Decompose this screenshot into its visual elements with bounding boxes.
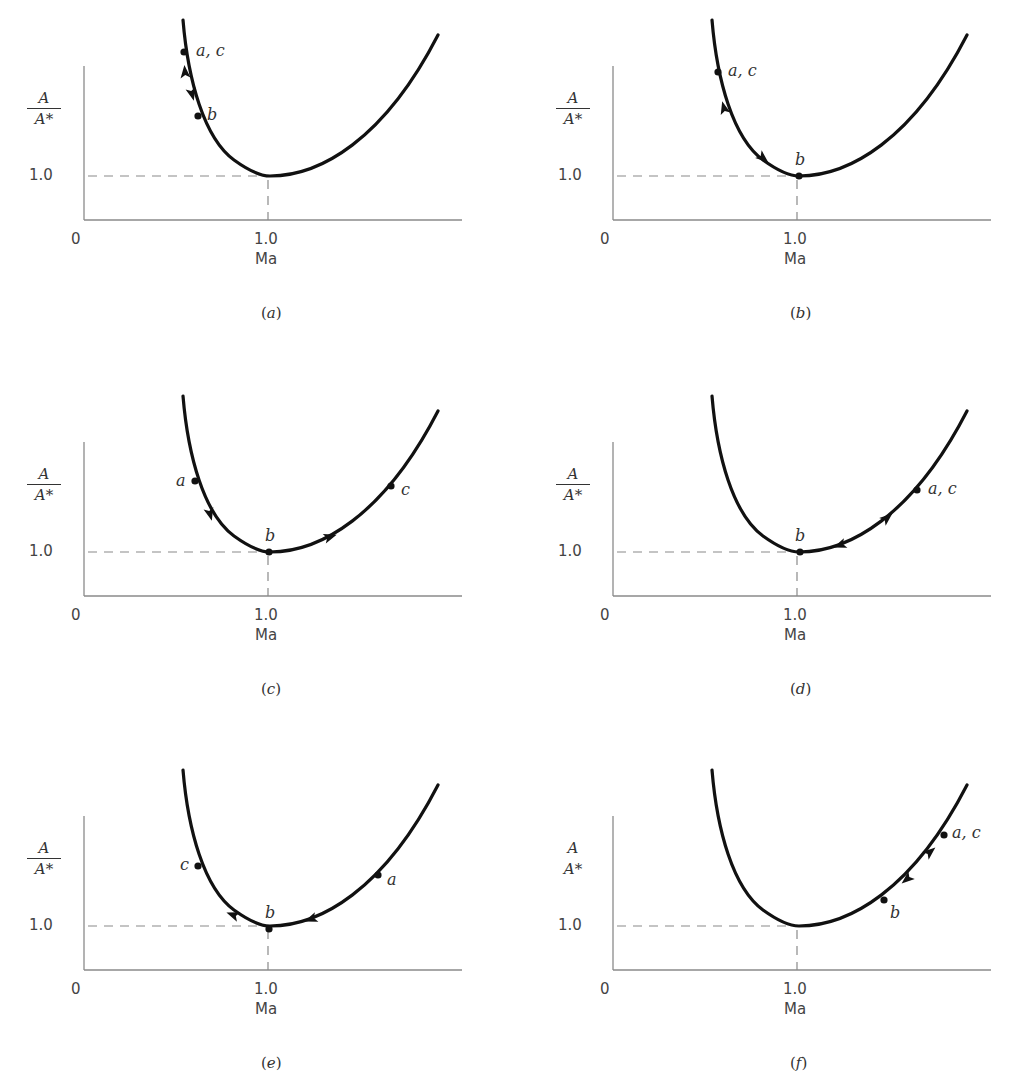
y-axis-label: AA* xyxy=(556,840,590,878)
state-point-label: c xyxy=(401,482,410,498)
state-point-label: b xyxy=(890,905,900,921)
state-point-label: a, c xyxy=(928,481,957,497)
y-axis-label-denominator: A* xyxy=(27,861,61,878)
panel-b: AA*1.001.0Maa, cb(b) xyxy=(613,20,1020,360)
state-point-marker xyxy=(265,925,272,932)
state-point-label: a, c xyxy=(728,63,757,79)
y-axis-label-denominator: A* xyxy=(556,487,590,504)
fraction-bar xyxy=(27,484,61,485)
state-point-marker xyxy=(194,112,201,119)
y-tick-label-1: 1.0 xyxy=(558,168,582,183)
plot-area xyxy=(84,770,564,1089)
area-ratio-curve xyxy=(183,396,438,552)
state-point-label: a, c xyxy=(196,43,225,59)
state-point-marker xyxy=(913,486,920,493)
plot-area xyxy=(613,770,1020,1089)
y-axis-label: AA* xyxy=(27,840,61,878)
state-point-label: b xyxy=(795,152,805,168)
panel-f: AA*1.001.0Maa, cb(f) xyxy=(613,770,1020,1089)
state-point-label: a xyxy=(176,473,186,489)
area-ratio-curve xyxy=(183,770,438,926)
state-point-label: b xyxy=(795,528,805,544)
y-axis-label-numerator: A xyxy=(27,90,61,107)
area-ratio-curve xyxy=(712,396,967,552)
panel-caption: (d) xyxy=(790,682,811,697)
y-axis-label: AA* xyxy=(27,466,61,504)
state-point-label: a, c xyxy=(952,825,981,841)
caption-paren-close: ) xyxy=(276,1054,282,1072)
state-point-label: a xyxy=(387,872,397,888)
x-tick-label-1: 1.0 xyxy=(783,982,807,997)
x-axis-label: Ma xyxy=(255,628,277,643)
fraction-bar xyxy=(27,108,61,109)
state-point-marker xyxy=(880,896,887,903)
caption-paren-close: ) xyxy=(801,1054,807,1072)
state-point-marker xyxy=(191,477,198,484)
panel-c: AA*1.001.0Maabc(c) xyxy=(84,396,564,736)
state-point-label: b xyxy=(207,107,217,123)
y-axis-label-numerator: A xyxy=(556,466,590,483)
x-axis-label: Ma xyxy=(784,628,806,643)
panel-caption: (e) xyxy=(261,1056,282,1071)
state-point-label: b xyxy=(265,528,275,544)
state-point-marker xyxy=(714,68,721,75)
state-point-marker xyxy=(265,548,272,555)
x-origin-label: 0 xyxy=(600,982,610,997)
state-point-marker xyxy=(795,172,802,179)
x-axis-label: Ma xyxy=(784,252,806,267)
caption-letter: e xyxy=(267,1054,276,1072)
y-axis-label-numerator: A xyxy=(27,466,61,483)
y-axis-label-denominator: A* xyxy=(556,111,590,128)
panel-caption: (a) xyxy=(261,306,282,321)
area-ratio-curve xyxy=(712,770,967,926)
x-axis-label: Ma xyxy=(255,252,277,267)
x-axis-label: Ma xyxy=(784,1002,806,1017)
fraction-bar xyxy=(27,858,61,859)
state-point-marker xyxy=(374,871,381,878)
y-axis-label-numerator: A xyxy=(556,90,590,107)
x-origin-label: 0 xyxy=(71,982,81,997)
plot-area xyxy=(84,396,564,736)
state-point-marker xyxy=(387,482,394,489)
panel-caption: (b) xyxy=(790,306,811,321)
y-axis-label: AA* xyxy=(556,90,590,128)
area-ratio-curve xyxy=(712,20,967,176)
y-axis-label-denominator: A* xyxy=(27,111,61,128)
panel-caption: (f) xyxy=(790,1056,807,1071)
fraction-bar xyxy=(556,484,590,485)
x-origin-label: 0 xyxy=(600,232,610,247)
x-origin-label: 0 xyxy=(71,608,81,623)
y-tick-label-1: 1.0 xyxy=(29,544,53,559)
panel-e: AA*1.001.0Macba(e) xyxy=(84,770,564,1089)
x-origin-label: 0 xyxy=(71,232,81,247)
state-point-marker xyxy=(796,548,803,555)
y-axis-label-denominator: A* xyxy=(556,861,590,878)
state-point-label: c xyxy=(180,857,189,873)
state-point-marker xyxy=(194,862,201,869)
y-tick-label-1: 1.0 xyxy=(29,918,53,933)
fraction-bar xyxy=(556,108,590,109)
caption-letter: c xyxy=(267,680,275,698)
plot-area xyxy=(613,20,1020,360)
state-point-label: b xyxy=(265,905,275,921)
x-tick-label-1: 1.0 xyxy=(254,982,278,997)
plot-area xyxy=(84,20,564,360)
y-tick-label-1: 1.0 xyxy=(29,168,53,183)
caption-paren-close: ) xyxy=(275,680,281,698)
plot-area xyxy=(613,396,1020,736)
y-axis-label-numerator: A xyxy=(556,840,590,857)
panel-d: AA*1.001.0Maa, cb(d) xyxy=(613,396,1020,736)
y-tick-label-1: 1.0 xyxy=(558,544,582,559)
panel-caption: (c) xyxy=(261,682,281,697)
x-tick-label-1: 1.0 xyxy=(254,232,278,247)
y-axis-label-numerator: A xyxy=(27,840,61,857)
y-axis-label: AA* xyxy=(27,90,61,128)
x-tick-label-1: 1.0 xyxy=(783,608,807,623)
x-axis-label: Ma xyxy=(255,1002,277,1017)
caption-letter: a xyxy=(267,304,276,322)
y-tick-label-1: 1.0 xyxy=(558,918,582,933)
state-point-marker xyxy=(180,48,187,55)
caption-paren-close: ) xyxy=(805,304,811,322)
caption-paren-close: ) xyxy=(805,680,811,698)
y-axis-label: AA* xyxy=(556,466,590,504)
